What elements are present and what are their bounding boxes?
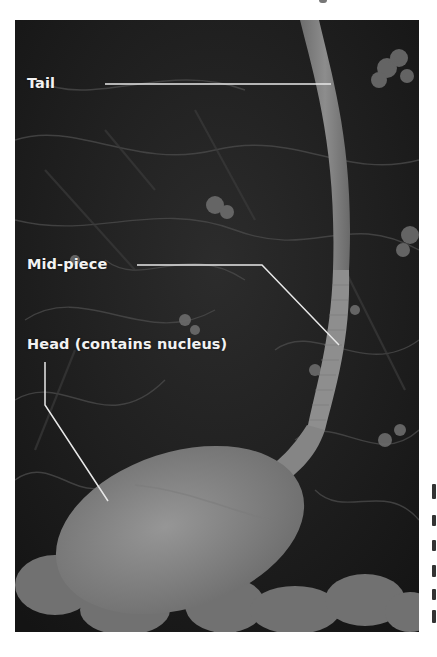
clipped-caption-glyph — [432, 610, 436, 623]
micrograph-photo: Tail Mid-piece Head (contains nucleus) — [15, 20, 419, 632]
micrograph-illustration — [15, 20, 419, 632]
clipped-caption-glyph — [432, 515, 436, 526]
clipped-caption-glyph — [432, 565, 436, 577]
clipped-caption-glyph — [432, 540, 436, 551]
label-head: Head (contains nucleus) — [27, 336, 227, 352]
label-tail: Tail — [27, 75, 55, 91]
label-mid-piece: Mid-piece — [27, 256, 107, 272]
clipped-caption-glyph — [432, 589, 436, 600]
clipped-caption-glyph — [432, 484, 436, 499]
page-edge-mark — [319, 0, 327, 3]
